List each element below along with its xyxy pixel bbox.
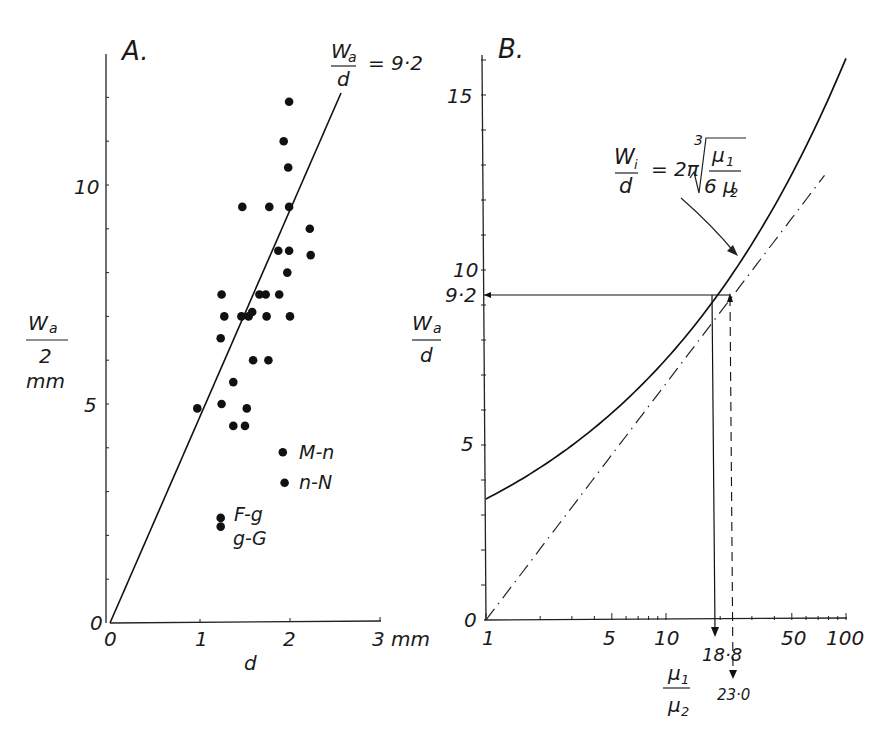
panel-b-ytick-0: 0 <box>464 608 477 632</box>
panel-b-x-ticks <box>486 613 846 620</box>
data-point <box>264 356 273 365</box>
panel-a-fit-line <box>110 93 341 623</box>
svg-text:i: i <box>634 157 638 172</box>
panel-b-vline-18-8 <box>712 295 715 630</box>
data-point <box>262 312 271 321</box>
data-point <box>217 290 226 299</box>
panel-a-xlabel: d <box>244 651 257 675</box>
svg-text:W: W <box>28 311 49 335</box>
svg-text:a: a <box>348 49 357 65</box>
panel-a-ytick-5: 5 <box>84 393 97 417</box>
data-point <box>193 404 202 413</box>
panel-b-ytick-15: 15 <box>447 84 472 108</box>
svg-text:μ: μ <box>667 693 681 717</box>
panel-b-vline-23-0 <box>730 297 733 672</box>
data-point <box>283 268 292 277</box>
panel-a-ytick-0: 0 <box>90 611 103 635</box>
panel-b: B. 15 10 9·2 5 0 W a d 1 5 10 50 100 18·… <box>412 34 864 719</box>
panel-b-ylabel: W a d <box>412 311 442 367</box>
svg-text:mm: mm <box>26 369 65 393</box>
panel-a-xtick-1: 1 <box>195 627 208 651</box>
panel-b-xtick-1: 1 <box>482 626 495 650</box>
svg-text:a: a <box>49 320 58 336</box>
data-point <box>249 356 258 365</box>
data-point <box>285 246 294 255</box>
panel-a: A. 10 5 0 0 1 2 3 mm d W a 2 mm W a <box>26 36 430 675</box>
svg-text:W: W <box>614 145 636 169</box>
svg-text:= 2π: = 2π <box>651 157 700 181</box>
panel-b-mark-18-8: 18·8 <box>702 644 742 665</box>
panel-b-formula: W i d = 2π 3 μ 1 6 μ 2 <box>614 132 746 256</box>
panel-b-xtick-100: 100 <box>826 626 864 650</box>
svg-text:2: 2 <box>39 344 52 368</box>
pointer-arrow-icon <box>727 245 738 256</box>
svg-text:d: d <box>337 67 350 91</box>
svg-text:d: d <box>420 343 433 367</box>
data-point <box>248 308 257 317</box>
panel-b-ytick-10: 10 <box>453 258 478 282</box>
arrow-down-18-8-icon <box>711 627 719 637</box>
data-point <box>216 514 225 523</box>
panel-a-title: A. <box>120 36 149 66</box>
panel-a-ytick-10: 10 <box>74 175 99 199</box>
panel-b-mark-23-0: 23·0 <box>717 686 750 704</box>
data-point <box>216 522 225 531</box>
panel-a-points <box>193 98 315 531</box>
data-point <box>279 137 288 146</box>
data-point <box>229 378 238 387</box>
svg-text:2: 2 <box>730 185 738 200</box>
data-point <box>261 290 270 299</box>
svg-text:d: d <box>619 174 633 198</box>
annotation-g-G: g-G <box>233 527 267 549</box>
svg-text:a: a <box>433 320 442 336</box>
svg-text:2: 2 <box>681 704 689 719</box>
svg-text:1: 1 <box>681 672 689 687</box>
data-point <box>265 203 274 212</box>
data-point <box>280 479 289 488</box>
svg-text:3: 3 <box>694 132 703 148</box>
data-point <box>238 203 247 212</box>
data-point <box>241 422 250 431</box>
data-point <box>284 163 293 172</box>
panel-a-xtick-2: 2 <box>283 627 296 651</box>
panel-a-fit-label: W a d = 9·2 <box>331 39 423 91</box>
data-point <box>306 251 315 260</box>
annotation-f-g: F-g <box>234 503 263 525</box>
panel-a-xtick-0: 0 <box>104 627 117 651</box>
annotation-m-n: M-n <box>299 441 334 463</box>
panel-b-xlabel: μ 1 μ 2 <box>663 661 690 719</box>
panel-b-dash-dot-line <box>486 175 825 620</box>
svg-text:μ: μ <box>711 143 725 167</box>
panel-a-x-axis <box>110 621 381 623</box>
annotation-n-N: n-N <box>299 471 332 493</box>
data-point <box>285 203 294 212</box>
panel-b-xtick-5: 5 <box>603 626 616 650</box>
panel-b-formula-curve <box>486 58 846 499</box>
arrow-down-23-0-icon <box>729 670 737 679</box>
svg-text:W: W <box>412 311 433 335</box>
data-point <box>216 334 225 343</box>
panel-b-title: B. <box>498 34 524 64</box>
data-point <box>229 422 238 431</box>
data-point <box>285 98 294 107</box>
panel-b-ytick-5: 5 <box>461 432 474 456</box>
panel-b-xtick-50: 50 <box>781 626 806 650</box>
svg-text:1: 1 <box>726 154 734 169</box>
data-point <box>279 448 288 457</box>
data-point <box>306 225 315 234</box>
data-point <box>274 246 283 255</box>
panel-b-xtick-10: 10 <box>654 626 679 650</box>
panel-a-xunit: 3 mm <box>372 627 430 651</box>
arrow-head-9-2-icon <box>484 292 491 298</box>
data-point <box>243 404 252 413</box>
panel-b-ymark-9-2: 9·2 <box>445 283 477 307</box>
svg-text:μ: μ <box>667 661 681 685</box>
figure: A. 10 5 0 0 1 2 3 mm d W a 2 mm W a <box>0 0 885 732</box>
data-point <box>286 312 295 321</box>
panel-a-ylabel: W a 2 mm <box>26 311 68 393</box>
svg-text:= 9·2: = 9·2 <box>368 51 423 75</box>
data-point <box>275 290 284 299</box>
panel-b-y-axis <box>482 55 486 620</box>
data-point <box>217 400 226 409</box>
data-point <box>220 312 229 321</box>
